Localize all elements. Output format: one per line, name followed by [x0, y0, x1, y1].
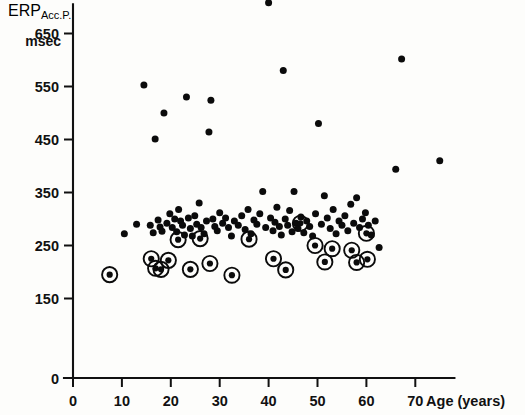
data-point-ringed	[266, 251, 281, 266]
data-point-plain	[160, 110, 167, 117]
x-axis-title: Age (years)	[426, 393, 505, 409]
data-point-plain	[333, 230, 340, 237]
data-point-plain	[152, 135, 159, 142]
data-point-plain	[159, 228, 166, 235]
data-point-core	[312, 242, 318, 248]
data-point-ringed	[360, 252, 375, 267]
data-point-plain	[312, 210, 319, 217]
x-tick-label-0: 0	[69, 393, 77, 409]
data-point-core	[207, 260, 213, 266]
data-point-core	[187, 266, 193, 272]
data-point-plain	[280, 67, 287, 74]
x-tick-label-60: 60	[358, 393, 374, 409]
data-point-ringed	[102, 267, 117, 282]
x-tick-label-30: 30	[212, 393, 228, 409]
y-axis-label-sub: Acc.P.	[41, 9, 71, 21]
data-point-plain	[291, 188, 298, 195]
data-point-plain	[276, 223, 283, 230]
data-point-ringed	[325, 241, 340, 256]
data-point-plain	[347, 201, 354, 208]
data-point-plain	[155, 217, 162, 224]
data-point-ringed	[183, 262, 198, 277]
data-point-plain	[376, 244, 383, 251]
data-point-plain	[187, 225, 194, 232]
data-point-plain	[216, 209, 223, 216]
data-point-core	[197, 236, 203, 242]
data-point-core	[329, 246, 335, 252]
x-tick-label-70: 70	[407, 393, 423, 409]
data-point-plain	[133, 221, 140, 228]
data-point-core	[246, 236, 252, 242]
data-point-plain	[318, 221, 325, 228]
y-tick-label-150: 150	[35, 291, 59, 307]
data-point-plain	[262, 224, 269, 231]
scatter-plot: 0150250350450550650010203040506070Age (y…	[0, 0, 525, 415]
data-point-ringed	[278, 262, 293, 277]
data-point-core	[297, 220, 303, 226]
data-point-plain	[235, 222, 242, 229]
data-point-plain	[222, 214, 229, 221]
x-tick-label-10: 10	[114, 393, 130, 409]
y-tick-label-0: 0	[51, 371, 59, 387]
data-point-plain	[214, 227, 221, 234]
data-point-plain	[253, 221, 260, 228]
data-point-plain	[238, 212, 245, 219]
data-point-plain	[321, 192, 328, 199]
data-point-core	[363, 230, 369, 236]
data-point-plain	[270, 227, 277, 234]
data-point-core	[354, 259, 360, 265]
data-point-core	[364, 256, 370, 262]
data-point-plain	[198, 224, 205, 231]
data-point-plain	[327, 225, 334, 232]
data-point-plain	[362, 209, 369, 216]
data-point-plain	[140, 81, 147, 88]
data-point-plain	[175, 206, 182, 213]
data-point-plain	[259, 188, 266, 195]
data-point-plain	[286, 207, 293, 214]
x-tick-label-20: 20	[163, 393, 179, 409]
y-tick-label-450: 450	[35, 132, 59, 148]
data-point-core	[283, 267, 289, 273]
data-point-plain	[353, 194, 360, 201]
data-point-plain	[338, 222, 345, 229]
data-point-plain	[225, 224, 232, 231]
data-point-ringed	[307, 238, 322, 253]
data-point-plain	[315, 120, 322, 127]
data-point-core	[229, 272, 235, 278]
data-point-core	[107, 272, 113, 278]
data-point-plain	[278, 231, 285, 238]
data-point-plain	[121, 230, 128, 237]
y-tick-label-250: 250	[35, 238, 59, 254]
data-point-plain	[392, 166, 399, 173]
data-point-plain	[372, 218, 379, 225]
x-tick-label-50: 50	[309, 393, 325, 409]
data-point-plain	[284, 222, 291, 229]
data-point-plain	[166, 210, 173, 217]
data-point-plain	[203, 218, 210, 225]
data-point-plain	[330, 206, 337, 213]
data-point-plain	[179, 222, 186, 229]
y-axis-unit-label: msec	[25, 33, 61, 49]
data-point-plain	[398, 55, 405, 62]
data-point-plain	[205, 129, 212, 136]
data-point-plain	[324, 214, 331, 221]
data-point-ringed	[193, 231, 208, 246]
data-point-plain	[191, 212, 198, 219]
data-point-plain	[185, 214, 192, 221]
series-plain-dots	[121, 0, 443, 251]
data-point-ringed	[224, 268, 239, 283]
data-point-core	[322, 259, 328, 265]
data-point-plain	[245, 206, 252, 213]
data-point-ringed	[202, 256, 217, 271]
data-point-plain	[256, 210, 263, 217]
data-point-core	[175, 237, 181, 243]
data-point-core	[270, 256, 276, 262]
data-point-plain	[147, 222, 154, 229]
data-point-plain	[183, 94, 190, 101]
data-point-plain	[436, 157, 443, 164]
data-point-plain	[341, 212, 348, 219]
y-axis-label-main: ERP	[8, 2, 41, 19]
data-point-plain	[207, 97, 214, 104]
data-point-plain	[359, 216, 366, 223]
data-point-plain	[350, 220, 357, 227]
